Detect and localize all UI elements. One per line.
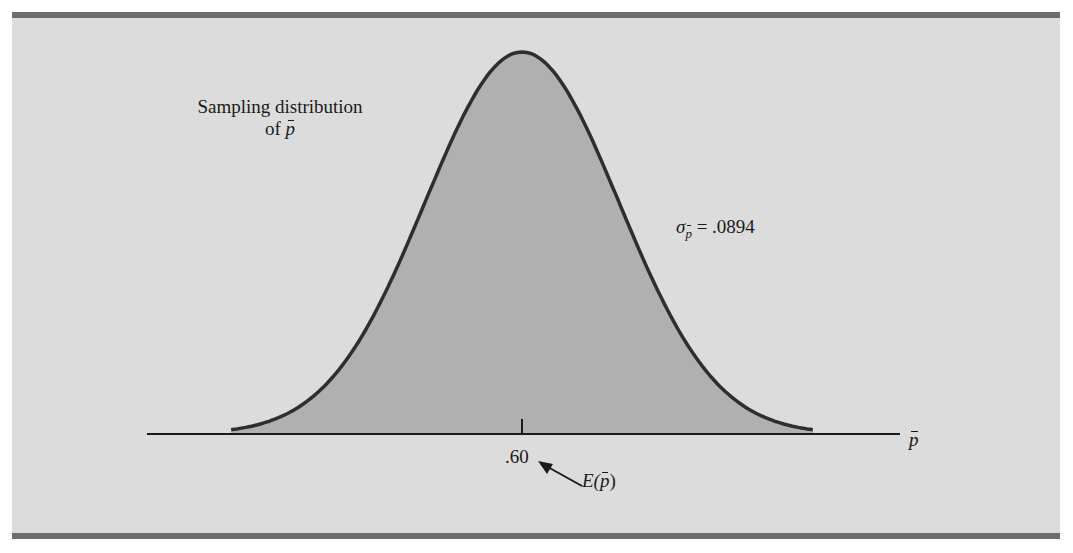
expected-value-prefix: E(	[582, 470, 600, 491]
expected-value-label: E(p)	[582, 470, 616, 492]
distribution-plot	[0, 0, 1073, 553]
distribution-label-line2: of p	[150, 118, 410, 140]
expected-value-suffix: )	[609, 470, 615, 491]
distribution-label: Sampling distribution of p	[150, 96, 410, 140]
distribution-label-prefix: of	[265, 118, 286, 139]
x-axis-variable-symbol: p	[909, 429, 919, 451]
standard-error-label: σp = .0894	[676, 216, 755, 240]
sigma-subscript: p	[685, 223, 692, 245]
x-axis-variable: p	[909, 429, 919, 451]
mean-tick-label: .60	[505, 446, 529, 468]
distribution-label-line1: Sampling distribution	[150, 96, 410, 118]
sigma-symbol: σ	[676, 216, 685, 237]
p-bar-symbol: p	[286, 118, 296, 140]
expected-value-arrow	[538, 461, 582, 486]
expected-value-var: p	[600, 470, 610, 492]
standard-error-value: = .0894	[692, 216, 755, 237]
